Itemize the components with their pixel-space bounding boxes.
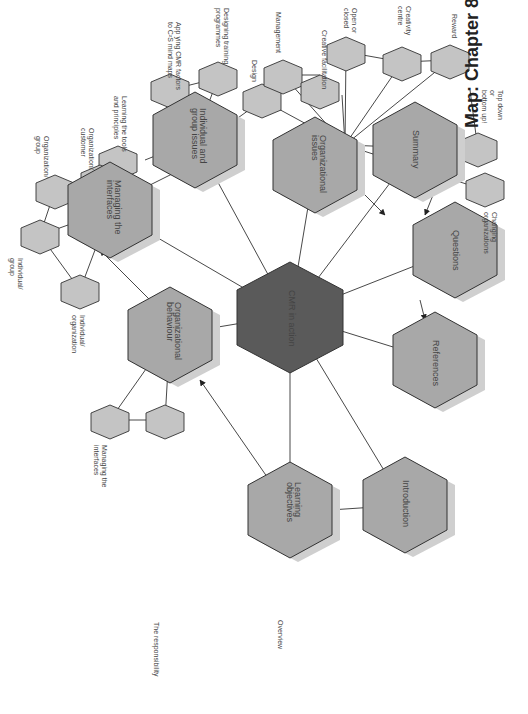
- label-reward: Reward: [450, 14, 458, 38]
- hex-changing-organizations: [466, 173, 504, 207]
- center-label: CMR in action: [288, 290, 296, 347]
- label-open-or-closed: Open or closed: [342, 8, 358, 33]
- label-org-customer: Organization/ customer: [79, 128, 95, 170]
- label-design: Design: [250, 60, 258, 82]
- label-introduction: Introduction: [402, 480, 410, 527]
- label-changing-organizations: Changing organizations: [482, 212, 498, 254]
- label-individual-organization: Individual/ organization: [70, 315, 86, 353]
- label-top-down-or-bottom-up: Top down or bottom up!: [480, 90, 504, 123]
- hex-individual-group: [21, 220, 59, 254]
- mind-map-diagram: Map: Chapter 8 CMR in action Organizatio…: [0, 0, 528, 714]
- label-creative-facilitation: Creative facilitation: [320, 30, 328, 89]
- label-summary: Summary: [412, 130, 420, 169]
- hex-creativity-centre: [383, 47, 421, 81]
- label-org-group: Organization/ group: [34, 136, 50, 178]
- label-overview: Overview: [276, 620, 284, 649]
- label-designing-training: Designing training programmes: [214, 8, 230, 64]
- hex-individual-organization: [61, 275, 99, 309]
- label-individual-group: Individual/ group: [8, 258, 24, 290]
- label-learning-objectives: Learning objectives: [286, 482, 302, 542]
- label-creativity-centre: Creativity centre: [396, 6, 412, 35]
- label-applying-cmr: App ying CMR factors to C²S mind maps: [166, 22, 182, 90]
- label-learning-tools: Learning the tools and principles: [112, 96, 128, 152]
- label-questions: Questions: [452, 230, 460, 271]
- label-organizational-behaviour: Organizational behaviour: [166, 302, 182, 368]
- label-management: Management: [274, 12, 282, 53]
- hex-managing-the-interfaces: [91, 405, 129, 439]
- label-references: References: [432, 340, 440, 386]
- label-individual-group-issues: Individual and group issues: [191, 108, 207, 178]
- hex-designing-training: [199, 62, 237, 96]
- label-managing-the-interfaces: Managing the interfaces: [92, 445, 108, 487]
- label-managing-interfaces: Managing the interfaces: [106, 180, 122, 242]
- label-the-responsibility: The responsibility: [152, 622, 160, 676]
- label-organizational-issues: Organizational issues: [311, 135, 327, 205]
- hex-open-closed: [327, 37, 365, 71]
- hex-the-responsibility: [146, 405, 184, 439]
